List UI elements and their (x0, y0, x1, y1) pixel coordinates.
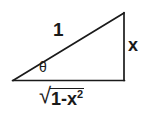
radicand-exponent: 2 (77, 88, 83, 100)
radicand-base: 1-x (51, 89, 77, 109)
hypotenuse-label: 1 (53, 20, 64, 39)
theta-angle-label: θ (39, 60, 47, 74)
adjacent-side-label: √ 1-x2 (39, 86, 84, 107)
radicand-expression: 1-x2 (50, 88, 84, 108)
diagram-canvas: 1 x θ √ 1-x2 (0, 0, 149, 115)
hypotenuse-line (13, 13, 124, 81)
opposite-side-label: x (128, 36, 138, 54)
